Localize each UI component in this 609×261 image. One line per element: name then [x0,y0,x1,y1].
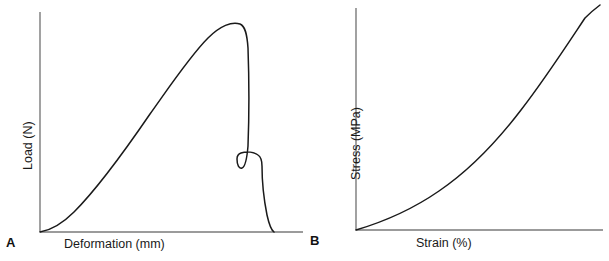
panel-a-load-curve [40,23,274,232]
panel-a-y-axis-label: Load (N) [22,121,35,170]
panel-b-letter: B [310,234,320,247]
panel-b-x-axis-label: Strain (%) [416,237,472,250]
panel-b-y-axis-label: Stress (MPa) [350,107,363,180]
panel-a: Load (N) Deformation (mm) A [0,0,305,261]
figure-container: Load (N) Deformation (mm) A Stress (MPa)… [0,0,609,261]
panel-b-stress-strain-curve [356,5,600,230]
panel-b: Stress (MPa) Strain (%) B [305,0,609,261]
panel-a-letter: A [6,236,16,249]
panel-a-plot [0,0,305,261]
panel-a-x-axis-label: Deformation (mm) [64,238,165,251]
